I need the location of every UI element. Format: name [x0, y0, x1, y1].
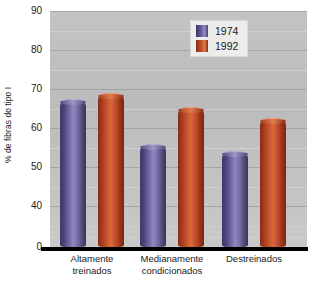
bar-1992-1: [178, 107, 204, 247]
legend-swatch-1974: [196, 25, 208, 37]
gridline: [50, 89, 307, 90]
bar-cap: [140, 144, 166, 150]
gridline: [50, 31, 307, 32]
x-axis-label-1: Medianamentecondicionados: [126, 253, 218, 277]
bar-1992-0: [98, 93, 124, 247]
gridline: [50, 50, 307, 51]
bar-chart: % de fibras do tipo I 0405060708090 1974…: [0, 0, 312, 285]
y-axis-title-text: % de fibras do tipo I: [3, 87, 13, 163]
x-label-line1: Destreinados: [226, 253, 282, 264]
legend-item-1974: 1974: [196, 25, 238, 37]
bar-cap: [98, 93, 124, 99]
x-label-line1: Medianamente: [141, 253, 204, 264]
bar-1974-1: [140, 144, 166, 247]
bar-cap: [222, 151, 248, 157]
gridline: [50, 11, 307, 12]
y-tick-label: 80: [14, 45, 42, 55]
bar-1974-0: [60, 99, 86, 247]
legend-item-1992: 1992: [196, 40, 238, 52]
x-label-line1: Altamente: [71, 253, 114, 264]
chart-legend: 19741992: [190, 20, 248, 57]
y-axis-ticks: 0405060708090: [14, 0, 42, 260]
legend-label-1992: 1992: [215, 41, 238, 52]
x-label-line2: condicionados: [126, 265, 218, 277]
y-tick-label: 90: [14, 6, 42, 16]
y-tick-label: 60: [14, 123, 42, 133]
x-axis-line: [41, 247, 308, 251]
gridline: [50, 70, 307, 71]
y-tick-label: 0: [14, 242, 42, 252]
y-tick-label: 40: [14, 201, 42, 211]
x-axis-label-2: Destreinados: [208, 253, 300, 265]
plot-area: 19741992: [50, 11, 307, 247]
x-label-line2: treinados: [46, 265, 138, 277]
y-tick-label: 50: [14, 162, 42, 172]
legend-label-1974: 1974: [215, 26, 238, 37]
bar-cap: [178, 107, 204, 113]
bar-cap: [260, 118, 286, 124]
bar-1974-2: [222, 151, 248, 247]
bar-1992-2: [260, 118, 286, 247]
x-axis-labels: AltamentetreinadosMedianamentecondiciona…: [50, 253, 307, 285]
y-tick-label: 70: [14, 84, 42, 94]
bar-cap: [60, 99, 86, 105]
x-axis-label-0: Altamentetreinados: [46, 253, 138, 277]
legend-swatch-1992: [196, 40, 208, 52]
